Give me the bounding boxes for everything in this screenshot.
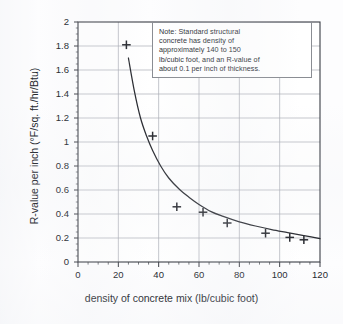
- y-tick-label: 0: [41, 256, 69, 267]
- y-tick-label: 2: [41, 16, 69, 27]
- y-tick-label: 1: [41, 136, 69, 147]
- note-line-5: about 0.1 per inch of thickness.: [159, 64, 306, 73]
- x-tick-label: 120: [305, 269, 335, 280]
- x-tick-label: 0: [63, 269, 93, 280]
- y-tick-label: 0.8: [41, 160, 69, 171]
- x-tick-label: 60: [184, 269, 214, 280]
- x-tick-label: 40: [144, 269, 174, 280]
- note-line-4: lb/cubic foot, and an R-value of: [159, 55, 306, 64]
- x-tick-label: 100: [265, 269, 295, 280]
- note-line-2: concrete has density of: [159, 36, 306, 45]
- y-tick-label: 0.6: [41, 184, 69, 195]
- x-tick-label: 80: [224, 269, 254, 280]
- x-axis-title: density of concrete mix (lb/cubic foot): [0, 292, 343, 304]
- y-tick-label: 1.2: [41, 112, 69, 123]
- y-tick-label: 0.4: [41, 208, 69, 219]
- y-tick-label: 1.6: [41, 64, 69, 75]
- y-tick-label: 1.8: [41, 40, 69, 51]
- note-line-3: approximately 140 to 150: [159, 45, 306, 54]
- note-annotation-box: Note: Standard structural concrete has d…: [152, 22, 312, 78]
- note-line-1: Note: Standard structural: [159, 27, 306, 36]
- y-tick-label: 0.2: [41, 232, 69, 243]
- y-axis-title: R-value per inch (°F/sq. ft./hr/Btu): [28, 26, 40, 266]
- chart-figure: Note: Standard structural concrete has d…: [0, 0, 343, 324]
- y-tick-label: 1.4: [41, 88, 69, 99]
- x-tick-label: 20: [103, 269, 133, 280]
